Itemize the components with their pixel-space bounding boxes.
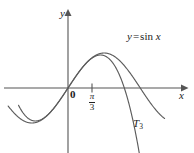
y-axis-arrowhead [65,9,72,16]
tick-label-pi-over-three: π 3 [85,92,99,112]
taylor-polynomial-figure: y x 0 y=sin x T3 π 3 [0,0,194,153]
sine-curve-label: y=sin x [127,31,161,42]
x-axis-label: x [179,90,184,101]
fraction-numerator: π [89,92,96,101]
sine-label-argument: x [156,30,161,42]
taylor-label-subscript: 3 [139,122,143,131]
figure-canvas [0,0,194,153]
sine-label-function: sin [140,30,153,42]
origin-label: 0 [70,89,76,100]
sine-label-equals: = [132,30,140,42]
taylor-curve-label: T3 [133,118,143,130]
fraction-denominator: 3 [89,103,96,112]
y-axis-label: y [60,8,65,19]
fraction-pi-over-three: π 3 [89,92,96,112]
taylor-polynomial-curve [19,55,146,153]
